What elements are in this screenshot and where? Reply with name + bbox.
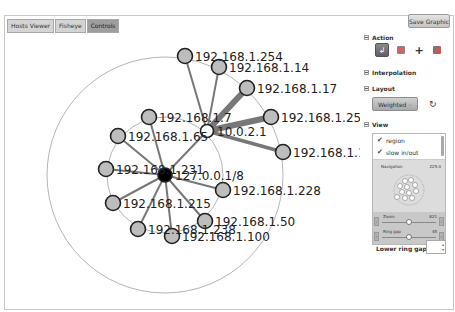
chevron-left-icon[interactable]: ‹	[374, 217, 379, 226]
control-sidebar: Save Graphic Action ↲ + Interpolation La…	[360, 0, 455, 312]
host-node[interactable]	[178, 49, 193, 64]
action-toolbar: ↲ +	[375, 43, 443, 57]
app-window: Hosts Viewer Fisheye Controls 127.0.0.1/…	[0, 0, 455, 312]
hosts-graph[interactable]: 127.0.0.1/8192.168.1.254192.168.1.14192.…	[0, 0, 360, 312]
host-label: 10.0.2.1	[217, 125, 267, 139]
pointer-icon[interactable]: ↲	[375, 43, 389, 57]
host-node[interactable]	[264, 110, 279, 125]
collapse-icon	[364, 35, 369, 40]
host-node[interactable]	[216, 183, 231, 198]
host-label: 192.168.1.100	[182, 230, 270, 244]
host-node[interactable]	[131, 222, 146, 237]
host-node[interactable]	[106, 196, 121, 211]
host-label: 192.168.1.25	[281, 111, 360, 125]
expand-icon	[364, 70, 369, 75]
host-node[interactable]	[240, 81, 255, 96]
checkmark-icon: ✔	[377, 136, 383, 144]
image-icon[interactable]	[395, 44, 407, 56]
section-layout[interactable]: Layout	[364, 85, 395, 92]
list-scrollbar[interactable]	[441, 136, 444, 156]
move-icon[interactable]: +	[413, 44, 425, 56]
host-label: 192.168.1.228	[233, 184, 321, 198]
host-label: 192.168.1.50	[215, 215, 295, 229]
ring-gap-slider-handle[interactable]	[406, 234, 412, 240]
host-label: 192.168.1.231	[116, 163, 204, 177]
lower-ring-gap-input[interactable]: ▴▾	[426, 240, 446, 254]
section-interpolation[interactable]: Interpolation	[364, 69, 416, 76]
view-options-list: ✔ region ✔ slow in/out	[373, 134, 445, 160]
section-action[interactable]: Action	[364, 34, 394, 41]
host-label: 192.168.1.7	[159, 111, 232, 125]
chevron-left-icon[interactable]: ‹	[374, 232, 379, 241]
navigation-overview[interactable]	[373, 160, 445, 212]
navigation-widget[interactable]: Navigation 225.0	[373, 160, 445, 212]
host-label: 192.168.1.215	[123, 197, 211, 211]
collapse-icon	[364, 122, 369, 127]
chevron-right-icon[interactable]: ›	[439, 217, 444, 226]
host-label: 192.168.1.65	[128, 130, 208, 144]
zoom-region-icon[interactable]	[431, 44, 443, 56]
zoom-slider-handle[interactable]	[406, 219, 412, 225]
view-panel: ✔ region ✔ slow in/out Navigation 225.0	[372, 133, 446, 245]
host-node[interactable]	[111, 129, 126, 144]
layout-select[interactable]: Weighted ⌵	[372, 97, 418, 111]
section-view[interactable]: View	[364, 121, 388, 128]
spinner-icon[interactable]: ▴▾	[442, 242, 444, 252]
host-label: 192.168.1.14	[229, 61, 309, 75]
checkbox-slow-in-out[interactable]: ✔ slow in/out	[377, 148, 418, 156]
refresh-icon[interactable]: ↻	[429, 99, 437, 109]
checkmark-icon: ✔	[377, 148, 383, 156]
lower-ring-gap-label: Lower ring gap	[376, 245, 427, 252]
chevron-down-icon: ⌵	[408, 101, 412, 108]
host-node[interactable]	[142, 110, 157, 125]
host-node[interactable]	[276, 145, 291, 160]
collapse-icon	[364, 86, 369, 91]
zoom-slider[interactable]: ‹ Zoom 821 ›	[373, 213, 445, 228]
save-graphic-button[interactable]: Save Graphic	[408, 14, 450, 28]
host-node[interactable]	[99, 162, 114, 177]
host-label: 192.168.1.1	[293, 146, 360, 160]
checkbox-region[interactable]: ✔ region	[377, 136, 405, 144]
host-label: 192.168.1.17	[257, 82, 337, 96]
